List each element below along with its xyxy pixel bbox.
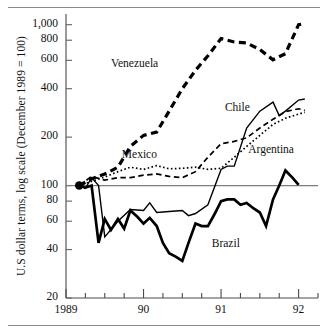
- chart-figure: U.S dollar terms, log scale (December 19…: [0, 0, 326, 332]
- series-line-mexico: [79, 112, 305, 185]
- series-line-venezuela: [79, 24, 305, 186]
- origin-marker: [75, 181, 83, 189]
- plot-area: [0, 0, 326, 332]
- series-line-chile: [79, 109, 305, 186]
